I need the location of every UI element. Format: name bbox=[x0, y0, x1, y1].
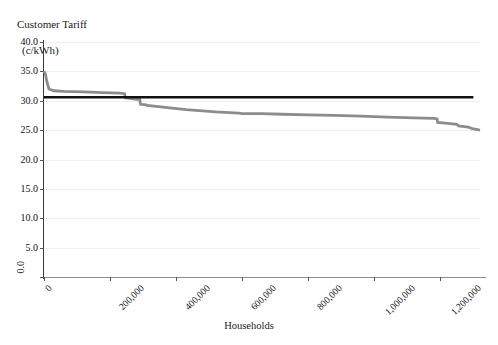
y-axis-tick-label: 40.0 bbox=[6, 37, 38, 47]
y-axis-tick-label: 0.0 bbox=[16, 261, 26, 293]
x-axis-title: Households bbox=[0, 320, 498, 331]
x-axis-tick-label: 600,000 bbox=[249, 283, 278, 312]
plot-area bbox=[44, 42, 480, 277]
y-axis-tick-label: 35.0 bbox=[6, 66, 38, 76]
y-axis-tick-label: 15.0 bbox=[6, 184, 38, 194]
customer-tariff-curve bbox=[44, 71, 480, 130]
y-axis-tick-label: 10.0 bbox=[6, 213, 38, 223]
x-axis-tick-label: 800,000 bbox=[315, 283, 344, 312]
y-axis-title-line1: Customer Tariff bbox=[17, 18, 87, 30]
y-axis-tick-label: 20.0 bbox=[6, 155, 38, 165]
x-axis-tick bbox=[176, 277, 177, 281]
x-axis-tick bbox=[242, 277, 243, 281]
x-axis-tick bbox=[440, 277, 441, 281]
x-axis-tick bbox=[44, 277, 45, 281]
x-axis-tick-label: 200,000 bbox=[117, 283, 146, 312]
x-axis-tick bbox=[374, 277, 375, 281]
x-axis-tick-label: 400,000 bbox=[183, 283, 212, 312]
x-axis-tick-label: 1,200,000 bbox=[449, 283, 483, 317]
chart-container: Customer Tariff (c/kWh) 40.035.030.025.0… bbox=[0, 0, 498, 345]
y-axis-tick-label: 30.0 bbox=[6, 96, 38, 106]
y-axis-tick-label: 5.0 bbox=[6, 243, 38, 253]
x-axis-tick-label: 1,000,000 bbox=[383, 283, 417, 317]
y-axis-tick-label: 25.0 bbox=[6, 125, 38, 135]
x-axis-tick bbox=[308, 277, 309, 281]
x-axis-tick-label: 0 bbox=[43, 283, 53, 293]
x-axis-tick bbox=[110, 277, 111, 281]
series-layer bbox=[44, 42, 480, 277]
